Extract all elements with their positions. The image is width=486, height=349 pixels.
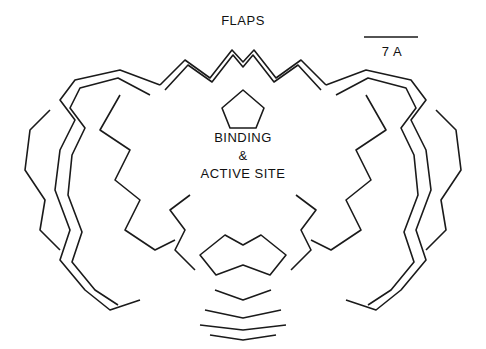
scale-bar-label: 7 A [370, 44, 414, 59]
binding-label: BINDING [193, 130, 293, 145]
active-site-label: ACTIVE SITE [173, 166, 313, 181]
flaps-label: FLAPS [213, 13, 273, 28]
ampersand-label: & [193, 148, 293, 163]
